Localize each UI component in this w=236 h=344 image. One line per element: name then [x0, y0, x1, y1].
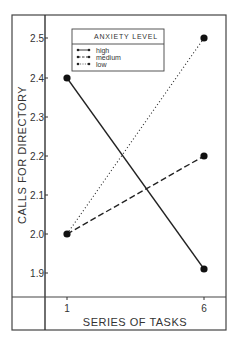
point-medium-6 [200, 152, 207, 159]
x-tick-label: 1 [64, 303, 70, 314]
y-tick-label: 2.5 [30, 33, 44, 44]
chart: 2.5 2.4 2.3 2.2 2.1 2.0 1.9 1 6 SERIES O… [0, 0, 236, 344]
x-ticks: 1 6 [64, 297, 207, 314]
y-axis-title: CALLS FOR DIRECTORY [16, 86, 28, 224]
y-tick-label: 1.9 [30, 268, 44, 279]
legend-label-low: low [96, 61, 107, 68]
y-tick-label: 2.0 [30, 229, 44, 240]
legend-label-medium: medium [96, 54, 121, 61]
series-high-line [67, 78, 204, 269]
x-tick-label: 6 [201, 303, 207, 314]
x-axis-title: SERIES OF TASKS [83, 316, 187, 328]
point-medium-low-1 [63, 230, 70, 237]
series-medium-line [67, 156, 204, 234]
y-tick-label: 2.3 [30, 112, 44, 123]
point-high-6 [200, 265, 207, 272]
y-tick-label: 2.2 [30, 151, 44, 162]
point-low-6 [200, 34, 207, 41]
y-tick-label: 2.4 [30, 73, 44, 84]
legend-title: ANXIETY LEVEL [94, 33, 158, 40]
point-high-1 [63, 74, 70, 81]
y-tick-label: 2.1 [30, 190, 44, 201]
legend: ANXIETY LEVEL high medium low [72, 29, 164, 71]
